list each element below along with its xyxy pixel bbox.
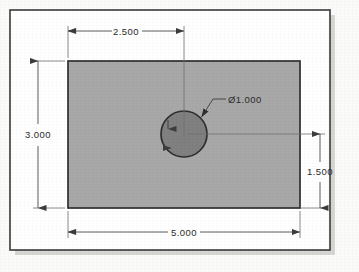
dim-label-1500: 1.500 xyxy=(307,166,333,177)
dim-label-diameter: Ø1.000 xyxy=(228,94,262,105)
engineering-drawing-svg: 2.500 3.000 Ø1.000 1.500 5.000 xyxy=(0,0,359,272)
dim-label-3000: 3.000 xyxy=(25,129,51,140)
drawing-canvas: 2.500 3.000 Ø1.000 1.500 5.000 xyxy=(0,0,359,272)
dim-label-2500: 2.500 xyxy=(113,26,139,37)
dim-label-5000: 5.000 xyxy=(171,227,197,238)
